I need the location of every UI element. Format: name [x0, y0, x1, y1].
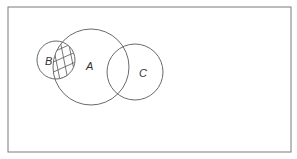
set-a-label: A: [85, 60, 93, 72]
set-b-label: B: [45, 55, 52, 67]
venn-diagram: A B C: [0, 0, 297, 159]
universal-set-frame: [8, 7, 291, 152]
set-c-label: C: [139, 67, 147, 79]
set-c-circle: [107, 44, 163, 100]
